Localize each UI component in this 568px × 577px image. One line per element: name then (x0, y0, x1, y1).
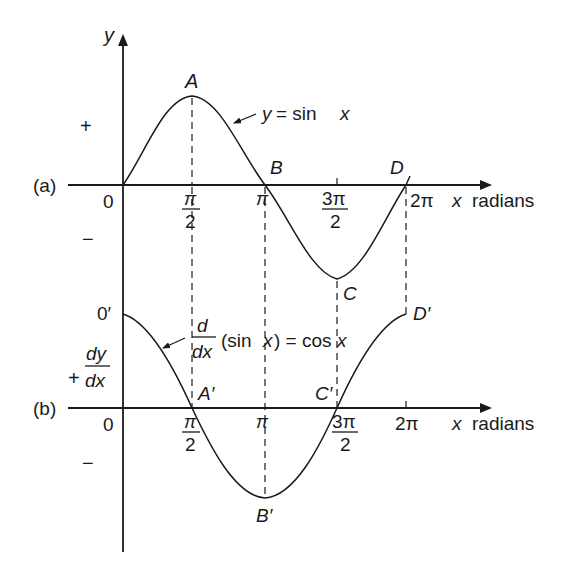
point-label-b: B (270, 157, 283, 178)
dydx-num: dy (86, 343, 108, 364)
tick-label-2pi: 2π (395, 413, 419, 434)
x-axis-units: radians (472, 190, 534, 211)
deriv-den: dx (192, 341, 214, 362)
panel-b-label: (b) (33, 398, 56, 419)
tick-label-3pi-over-2-den: 2 (340, 434, 351, 455)
point-label-d-prime: D′ (413, 303, 432, 324)
x-axis-label: x (451, 413, 463, 434)
tick-label-3pi-over-2-den: 2 (330, 211, 341, 232)
tick-label-pi-over-2-den: 2 (185, 434, 196, 455)
panel-a: (a) + − 0 π 2 π 3π 2 2π x radians A B C … (33, 70, 534, 304)
point-label-c: C (343, 283, 357, 304)
x-axis-units: radians (472, 413, 534, 434)
deriv-sin-open: (sin (221, 330, 252, 351)
deriv-num: d (197, 315, 209, 336)
dydx-den: dx (85, 370, 107, 391)
plus-sign: + (68, 367, 80, 389)
panel-b: (b) + dy dx − 0 π 2 π 3π 2 2π x radians … (33, 303, 534, 526)
plus-sign: + (80, 115, 92, 137)
cos-label-pointer (163, 338, 185, 348)
tick-label-pi-over-2-num: π (184, 412, 197, 432)
sine-derivative-diagram: y (a) + − 0 π 2 π 3π 2 2π x radians A B … (0, 0, 568, 577)
point-label-c-prime: C′ (315, 383, 334, 404)
point-label-a: A (184, 70, 198, 92)
x-axis-label: x (451, 190, 463, 211)
minus-sign: − (82, 452, 94, 474)
sin-label-eq: = sin (276, 103, 317, 124)
sin-label-y: y (260, 103, 273, 124)
point-label-b-prime: B′ (256, 505, 274, 526)
tick-label-pi-over-2-den: 2 (185, 211, 196, 232)
sin-label-pointer (234, 114, 256, 123)
deriv-sin-x: x (262, 330, 274, 351)
tick-label-pi: π (256, 189, 269, 209)
tick-label-pi: π (256, 412, 269, 432)
panel-a-label: (a) (33, 175, 56, 196)
point-label-a-prime: A′ (197, 383, 216, 404)
point-label-0-prime: 0′ (97, 303, 112, 324)
tick-label-3pi-over-2-num: 3π (322, 188, 346, 209)
origin-label: 0 (103, 414, 114, 435)
point-label-d: D (390, 157, 404, 178)
tick-label-pi-over-2-num: π (184, 189, 197, 209)
y-axis-label: y (102, 24, 115, 46)
minus-sign: − (82, 228, 94, 250)
tick-label-2pi: 2π (410, 190, 434, 211)
sin-label-x: x (339, 103, 351, 124)
deriv-cos-x: x (336, 330, 348, 351)
origin-label: 0 (103, 191, 114, 212)
tick-label-3pi-over-2-num: 3π (332, 411, 356, 432)
deriv-cos-eq: ) = cos (274, 330, 332, 351)
